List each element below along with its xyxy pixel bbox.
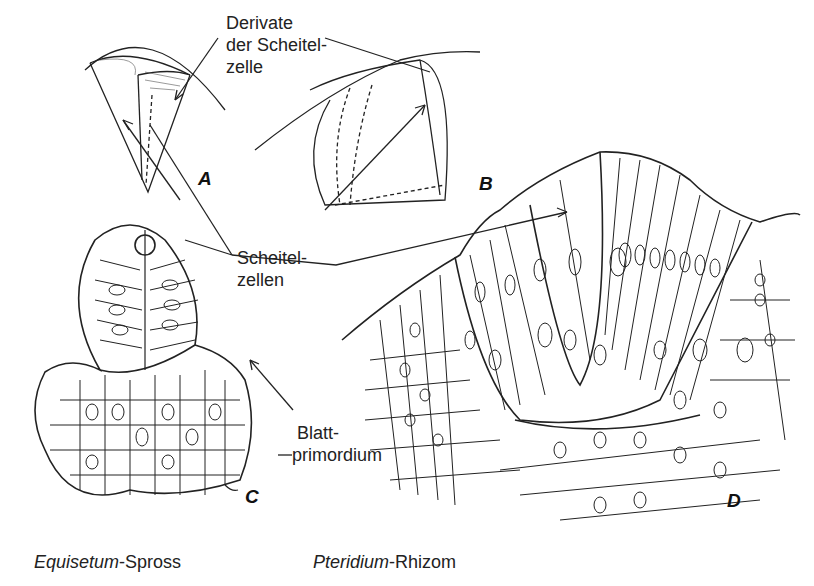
diagram-figure: Derivate der Scheitel- zelle Scheitel- z… [0, 0, 814, 586]
caption-equisetum: Equisetum-Spross [34, 552, 181, 573]
arrow-derivate-a [175, 38, 218, 100]
label-blattprimordium: Blatt- primordium [292, 422, 382, 466]
caption-organ: -Rhizom [389, 552, 456, 572]
label-scheitelzellen: Scheitel- zellen [237, 247, 307, 291]
panel-label-d: D [727, 490, 741, 512]
label-line: Derivate [226, 12, 327, 34]
caption-genus: Equisetum [34, 552, 119, 572]
pteridium-rhizome-d [342, 152, 800, 429]
equisetum-shoot-c [35, 225, 251, 495]
panel-label-a: A [198, 168, 212, 190]
pteridium-cells [365, 158, 795, 520]
panel-label-c: C [245, 486, 259, 508]
arrow-blattprimordium [250, 360, 293, 410]
label-derivate: Derivate der Scheitel- zelle [226, 12, 327, 78]
caption-genus: Pteridium [313, 552, 389, 572]
label-line: zellen [237, 269, 307, 291]
label-line: zelle [226, 56, 327, 78]
panel-label-b: B [479, 173, 493, 195]
label-line: Scheitel- [237, 247, 307, 269]
caption-organ: -Spross [119, 552, 181, 572]
label-line: der Scheitel- [226, 34, 327, 56]
diagram-drawing [0, 0, 814, 586]
label-line: primordium [292, 444, 382, 466]
label-line: Blatt- [292, 422, 382, 444]
caption-pteridium: Pteridium-Rhizom [313, 552, 456, 573]
